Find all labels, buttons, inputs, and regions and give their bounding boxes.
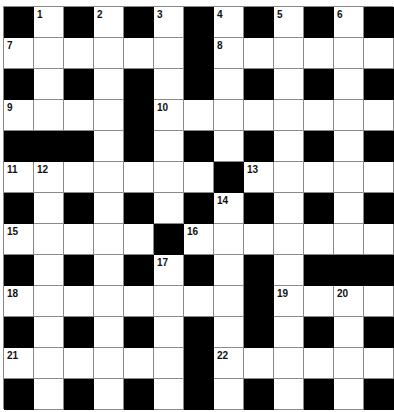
answer-cell[interactable] bbox=[304, 38, 334, 69]
answer-cell[interactable] bbox=[34, 317, 64, 348]
answer-cell[interactable] bbox=[364, 224, 394, 255]
answer-cell[interactable] bbox=[34, 193, 64, 224]
answer-cell[interactable] bbox=[94, 100, 124, 131]
answer-cell[interactable] bbox=[94, 69, 124, 100]
answer-cell[interactable] bbox=[184, 286, 214, 317]
answer-cell[interactable] bbox=[124, 348, 154, 379]
answer-cell[interactable] bbox=[244, 38, 274, 69]
answer-cell[interactable] bbox=[154, 348, 184, 379]
answer-cell[interactable] bbox=[364, 162, 394, 193]
answer-cell[interactable] bbox=[364, 38, 394, 69]
answer-cell[interactable]: 18 bbox=[4, 286, 34, 317]
answer-cell[interactable] bbox=[154, 317, 184, 348]
answer-cell[interactable] bbox=[64, 224, 94, 255]
answer-cell[interactable] bbox=[274, 348, 304, 379]
answer-cell[interactable] bbox=[154, 379, 184, 410]
answer-cell[interactable] bbox=[34, 255, 64, 286]
answer-cell[interactable] bbox=[154, 69, 184, 100]
answer-cell[interactable] bbox=[214, 379, 244, 410]
answer-cell[interactable]: 9 bbox=[4, 100, 34, 131]
answer-cell[interactable] bbox=[274, 193, 304, 224]
answer-cell[interactable] bbox=[34, 69, 64, 100]
answer-cell[interactable] bbox=[124, 286, 154, 317]
answer-cell[interactable] bbox=[34, 348, 64, 379]
answer-cell[interactable] bbox=[334, 348, 364, 379]
answer-cell[interactable] bbox=[214, 131, 244, 162]
answer-cell[interactable] bbox=[94, 131, 124, 162]
answer-cell[interactable]: 16 bbox=[184, 224, 214, 255]
answer-cell[interactable] bbox=[94, 255, 124, 286]
answer-cell[interactable] bbox=[154, 131, 184, 162]
answer-cell[interactable] bbox=[304, 286, 334, 317]
answer-cell[interactable] bbox=[124, 162, 154, 193]
answer-cell[interactable]: 19 bbox=[274, 286, 304, 317]
answer-cell[interactable] bbox=[304, 100, 334, 131]
answer-cell[interactable]: 5 bbox=[274, 7, 304, 38]
answer-cell[interactable] bbox=[124, 38, 154, 69]
answer-cell[interactable] bbox=[64, 286, 94, 317]
answer-cell[interactable] bbox=[244, 100, 274, 131]
answer-cell[interactable] bbox=[304, 162, 334, 193]
answer-cell[interactable] bbox=[154, 38, 184, 69]
answer-cell[interactable] bbox=[34, 224, 64, 255]
answer-cell[interactable] bbox=[184, 100, 214, 131]
answer-cell[interactable] bbox=[34, 100, 64, 131]
answer-cell[interactable]: 6 bbox=[334, 7, 364, 38]
answer-cell[interactable] bbox=[304, 348, 334, 379]
answer-cell[interactable] bbox=[124, 224, 154, 255]
answer-cell[interactable] bbox=[214, 317, 244, 348]
answer-cell[interactable] bbox=[274, 131, 304, 162]
answer-cell[interactable]: 8 bbox=[214, 38, 244, 69]
answer-cell[interactable] bbox=[334, 38, 364, 69]
answer-cell[interactable] bbox=[334, 379, 364, 410]
answer-cell[interactable] bbox=[34, 286, 64, 317]
answer-cell[interactable] bbox=[64, 348, 94, 379]
answer-cell[interactable] bbox=[94, 38, 124, 69]
answer-cell[interactable] bbox=[64, 162, 94, 193]
answer-cell[interactable]: 15 bbox=[4, 224, 34, 255]
answer-cell[interactable]: 4 bbox=[214, 7, 244, 38]
answer-cell[interactable] bbox=[214, 255, 244, 286]
answer-cell[interactable] bbox=[154, 193, 184, 224]
answer-cell[interactable] bbox=[154, 286, 184, 317]
answer-cell[interactable]: 17 bbox=[154, 255, 184, 286]
answer-cell[interactable] bbox=[94, 193, 124, 224]
answer-cell[interactable] bbox=[334, 193, 364, 224]
answer-cell[interactable]: 3 bbox=[154, 7, 184, 38]
answer-cell[interactable] bbox=[334, 224, 364, 255]
answer-cell[interactable] bbox=[34, 379, 64, 410]
answer-cell[interactable] bbox=[274, 38, 304, 69]
answer-cell[interactable] bbox=[244, 348, 274, 379]
answer-cell[interactable] bbox=[154, 162, 184, 193]
answer-cell[interactable] bbox=[274, 317, 304, 348]
answer-cell[interactable] bbox=[94, 224, 124, 255]
answer-cell[interactable] bbox=[64, 38, 94, 69]
answer-cell[interactable] bbox=[364, 286, 394, 317]
answer-cell[interactable] bbox=[94, 379, 124, 410]
answer-cell[interactable] bbox=[244, 224, 274, 255]
answer-cell[interactable] bbox=[34, 38, 64, 69]
answer-cell[interactable] bbox=[274, 255, 304, 286]
answer-cell[interactable] bbox=[334, 100, 364, 131]
answer-cell[interactable] bbox=[94, 348, 124, 379]
answer-cell[interactable]: 14 bbox=[214, 193, 244, 224]
answer-cell[interactable]: 22 bbox=[214, 348, 244, 379]
answer-cell[interactable]: 7 bbox=[4, 38, 34, 69]
answer-cell[interactable] bbox=[94, 317, 124, 348]
answer-cell[interactable]: 20 bbox=[334, 286, 364, 317]
answer-cell[interactable] bbox=[214, 224, 244, 255]
answer-cell[interactable] bbox=[274, 69, 304, 100]
answer-cell[interactable] bbox=[64, 100, 94, 131]
answer-cell[interactable] bbox=[274, 379, 304, 410]
answer-cell[interactable] bbox=[334, 317, 364, 348]
answer-cell[interactable] bbox=[214, 286, 244, 317]
answer-cell[interactable] bbox=[364, 348, 394, 379]
answer-cell[interactable] bbox=[274, 100, 304, 131]
answer-cell[interactable] bbox=[274, 224, 304, 255]
answer-cell[interactable] bbox=[214, 100, 244, 131]
answer-cell[interactable]: 1 bbox=[34, 7, 64, 38]
answer-cell[interactable]: 13 bbox=[244, 162, 274, 193]
answer-cell[interactable] bbox=[184, 162, 214, 193]
answer-cell[interactable] bbox=[304, 224, 334, 255]
answer-cell[interactable]: 11 bbox=[4, 162, 34, 193]
